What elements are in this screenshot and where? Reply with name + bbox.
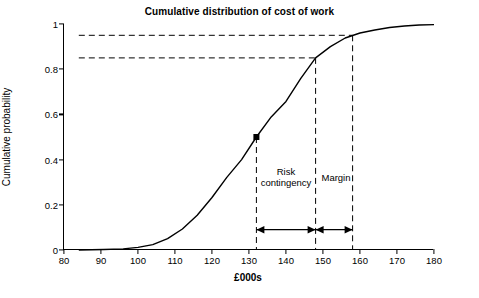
x-tick-label: 110 — [167, 255, 182, 266]
y-tick-label: 0 — [53, 245, 58, 256]
x-tick-label: 80 — [59, 255, 70, 266]
margin-label: Margin — [321, 172, 350, 183]
median-point-marker — [253, 134, 259, 140]
x-tick-label: 170 — [389, 255, 405, 266]
x-tick-label: 100 — [130, 255, 146, 266]
y-tick-label: 0.6 — [45, 109, 58, 120]
y-axis-label: Cumulative probability — [1, 88, 12, 186]
y-tick-label: 0.4 — [45, 154, 58, 165]
x-tick-label: 150 — [315, 255, 331, 266]
margin-arrow — [316, 226, 353, 234]
risk-contingency-label: Risk contingency — [261, 166, 312, 188]
chart-title: Cumulative distribution of cost of work — [0, 6, 479, 17]
y-tick-label: 1 — [53, 19, 58, 30]
risk-contingency-label-line2: contingency — [261, 177, 312, 188]
chart-svg — [64, 24, 434, 250]
x-tick-label: 180 — [426, 255, 442, 266]
y-tick-label: 0.8 — [45, 64, 58, 75]
y-tick-label: 0.2 — [45, 199, 58, 210]
x-tick-label: 130 — [241, 255, 257, 266]
plot-area: 0 0.2 0.4 0.6 0.8 1 80 90 100 110 120 13… — [63, 24, 433, 250]
x-tick-label: 140 — [278, 255, 294, 266]
risk-contingency-arrow — [256, 226, 315, 234]
risk-contingency-label-line1: Risk — [261, 166, 312, 177]
x-tick-label: 90 — [96, 255, 107, 266]
x-tick-label: 120 — [204, 255, 220, 266]
x-axis-label: £000s — [63, 272, 433, 283]
x-tick-label: 160 — [352, 255, 368, 266]
chart-container: Cumulative distribution of cost of work … — [0, 0, 479, 298]
